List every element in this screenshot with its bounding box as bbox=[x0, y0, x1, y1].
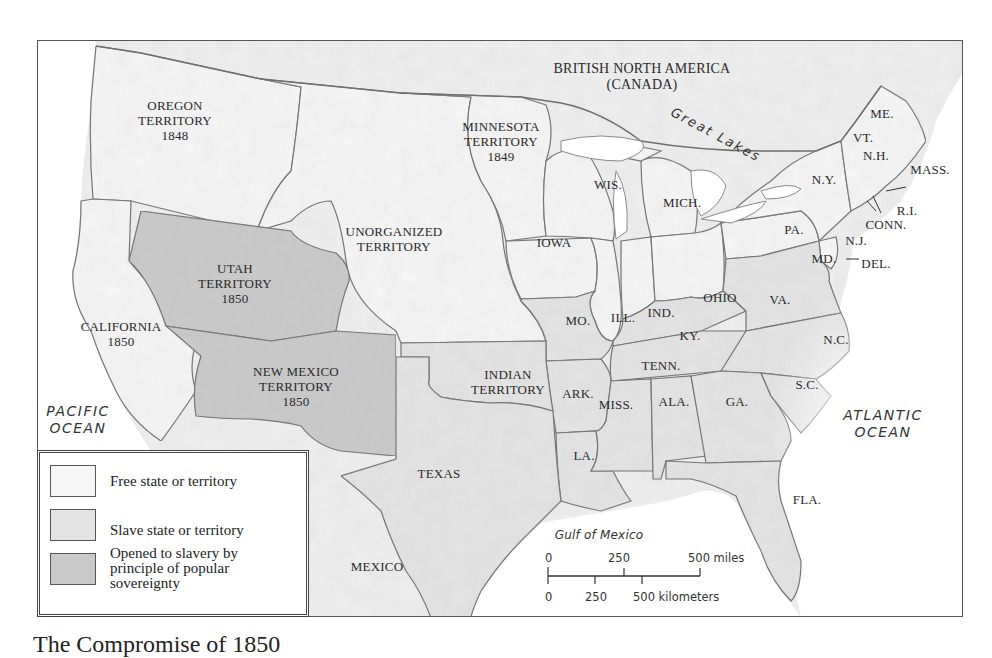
label-state-sc: S.C. bbox=[795, 377, 818, 392]
label-unorganized-line1: UNORGANIZED bbox=[346, 224, 443, 239]
label-state-va: VA. bbox=[770, 292, 791, 307]
legend-label-free: Free state or territory bbox=[110, 474, 237, 489]
legend-item-slave: Slave state or territory bbox=[50, 509, 244, 541]
label-indian-territory: INDIAN TERRITORY bbox=[471, 367, 545, 397]
label-state-ark: ARK. bbox=[562, 386, 594, 401]
label-state-fla: FLA. bbox=[793, 492, 822, 507]
legend-label-slave: Slave state or territory bbox=[110, 523, 244, 538]
label-california: CALIFORNIA 1850 bbox=[81, 319, 162, 349]
legend-swatch-popular-sovereignty bbox=[50, 553, 96, 585]
label-state-vt: VT. bbox=[853, 130, 873, 145]
label-pacific-line2: OCEAN bbox=[46, 420, 110, 437]
label-new-mexico-line2: TERRITORY bbox=[253, 379, 339, 394]
label-unorganized-territory: UNORGANIZED TERRITORY bbox=[346, 224, 443, 254]
label-state-pa: PA. bbox=[784, 222, 803, 237]
label-state-md: MD. bbox=[812, 251, 837, 266]
label-new-mexico-territory: NEW MEXICO TERRITORY 1850 bbox=[253, 364, 339, 409]
label-state-me: ME. bbox=[870, 106, 893, 121]
legend-item-free: Free state or territory bbox=[50, 465, 237, 497]
label-minnesota-line2: TERRITORY bbox=[462, 134, 539, 149]
label-canada-line1: BRITISH NORTH AMERICA bbox=[554, 61, 731, 77]
scale-km-500: 500 kilometers bbox=[633, 590, 719, 604]
label-utah-territory: UTAH TERRITORY 1850 bbox=[198, 261, 272, 306]
label-oregon-line1: OREGON bbox=[138, 98, 212, 113]
label-mexico: MEXICO bbox=[351, 559, 403, 574]
label-atlantic-line2: OCEAN bbox=[843, 424, 922, 441]
label-minnesota-territory: MINNESOTA TERRITORY 1849 bbox=[462, 119, 539, 164]
legend-swatch-slave bbox=[50, 509, 96, 541]
map-legend: Free state or territory Slave state or t… bbox=[37, 450, 309, 617]
scale-bar: 0 250 500 miles 0 250 500 kilometers bbox=[545, 551, 785, 611]
legend-swatch-free bbox=[50, 465, 96, 497]
label-state-del: DEL. bbox=[861, 256, 890, 271]
label-state-nj: N.J. bbox=[845, 233, 867, 248]
label-utah-line1: UTAH bbox=[198, 261, 272, 276]
label-unorganized-line2: TERRITORY bbox=[346, 239, 443, 254]
label-california-line1: CALIFORNIA bbox=[81, 319, 162, 334]
label-state-ala: ALA. bbox=[659, 394, 690, 409]
map-caption: The Compromise of 1850 bbox=[33, 631, 280, 658]
label-california-line2: 1850 bbox=[81, 334, 162, 349]
label-canada-line2: (CANADA) bbox=[554, 77, 731, 93]
label-state-la: LA. bbox=[573, 448, 594, 463]
label-new-mexico-line3: 1850 bbox=[253, 394, 339, 409]
label-texas: TEXAS bbox=[418, 466, 461, 481]
label-state-ohio: OHIO bbox=[703, 290, 736, 305]
label-state-ill: ILL. bbox=[611, 310, 635, 325]
scale-miles-0: 0 bbox=[545, 551, 552, 565]
label-utah-line3: 1850 bbox=[198, 291, 272, 306]
scale-km-0: 0 bbox=[545, 590, 552, 604]
label-state-ny: N.Y. bbox=[812, 172, 836, 187]
label-canada: BRITISH NORTH AMERICA (CANADA) bbox=[554, 61, 731, 93]
label-pacific-ocean: PACIFIC OCEAN bbox=[46, 403, 110, 437]
label-state-mass: MASS. bbox=[910, 162, 950, 177]
scale-bar-graphic bbox=[545, 566, 705, 588]
label-utah-line2: TERRITORY bbox=[198, 276, 272, 291]
label-state-nh: N.H. bbox=[863, 148, 889, 163]
label-state-mich: MICH. bbox=[663, 195, 701, 210]
label-state-ky: KY. bbox=[680, 328, 701, 343]
legend-label-popular-sovereignty: Opened to slavery by principle of popula… bbox=[110, 546, 290, 591]
label-state-nc: N.C. bbox=[823, 332, 848, 347]
label-oregon-line3: 1848 bbox=[138, 128, 212, 143]
label-indian-line1: INDIAN bbox=[471, 367, 545, 382]
label-atlantic-line1: ATLANTIC bbox=[843, 407, 922, 424]
label-minnesota-line3: 1849 bbox=[462, 149, 539, 164]
scale-km-250: 250 bbox=[585, 590, 607, 604]
label-state-conn: CONN. bbox=[865, 217, 906, 232]
legend-item-popular-sovereignty: Opened to slavery by principle of popula… bbox=[50, 553, 290, 591]
label-minnesota-line1: MINNESOTA bbox=[462, 119, 539, 134]
label-gulf-of-mexico: Gulf of Mexico bbox=[555, 528, 644, 543]
label-state-mo: MO. bbox=[566, 313, 591, 328]
label-oregon-territory: OREGON TERRITORY 1848 bbox=[138, 98, 212, 143]
label-pacific-line1: PACIFIC bbox=[46, 403, 110, 420]
scale-miles-250: 250 bbox=[608, 551, 630, 565]
label-state-ga: GA. bbox=[726, 394, 749, 409]
label-state-ri: R.I. bbox=[897, 203, 917, 218]
label-state-ind: IND. bbox=[647, 305, 674, 320]
label-indian-line2: TERRITORY bbox=[471, 382, 545, 397]
label-oregon-line2: TERRITORY bbox=[138, 113, 212, 128]
label-atlantic-ocean: ATLANTIC OCEAN bbox=[843, 407, 922, 441]
label-new-mexico-line1: NEW MEXICO bbox=[253, 364, 339, 379]
scale-miles-500: 500 miles bbox=[688, 551, 744, 565]
label-state-wis: WIS. bbox=[594, 177, 622, 192]
label-state-iowa: IOWA bbox=[537, 235, 572, 250]
label-state-tenn: TENN. bbox=[642, 358, 681, 373]
label-state-miss: MISS. bbox=[599, 397, 634, 412]
